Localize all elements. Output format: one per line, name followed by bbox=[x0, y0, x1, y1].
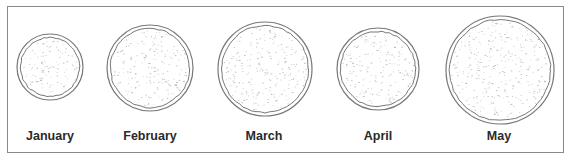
label-february: February bbox=[100, 129, 200, 143]
culture-circle-march bbox=[218, 22, 312, 116]
culture-circle-may bbox=[446, 16, 554, 124]
label-april: April bbox=[328, 129, 428, 143]
culture-circle-january bbox=[17, 34, 83, 100]
culture-circle-february bbox=[107, 25, 193, 111]
culture-circle-april bbox=[337, 28, 419, 110]
label-march: March bbox=[214, 129, 314, 143]
label-may: May bbox=[449, 129, 549, 143]
label-january: January bbox=[0, 129, 100, 143]
